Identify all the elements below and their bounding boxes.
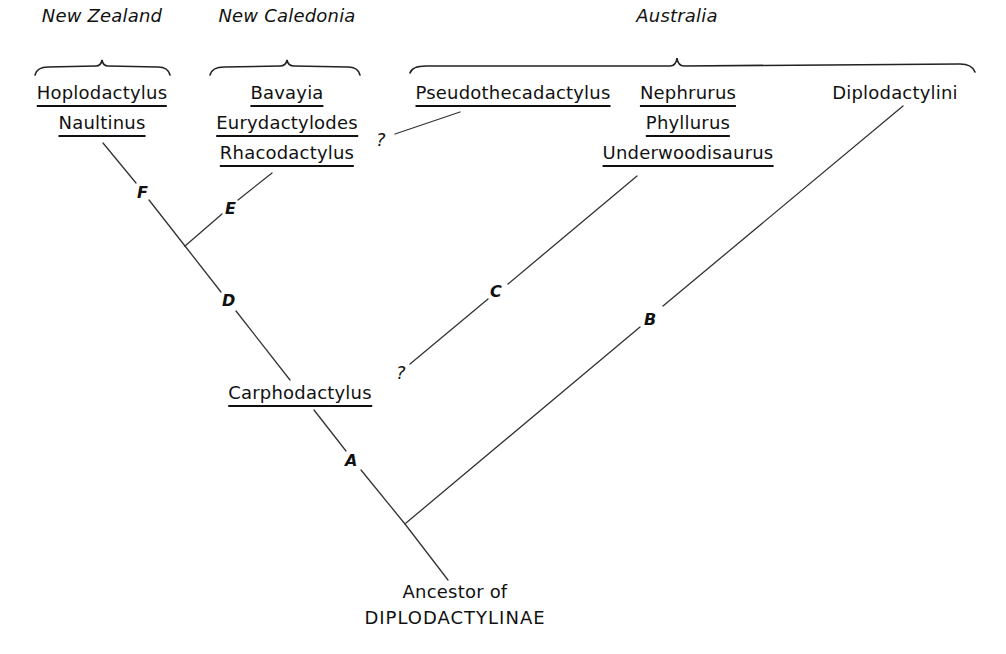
region-label-australia: Australia	[636, 6, 717, 26]
branch-e-lower	[185, 214, 222, 246]
taxon-nephrurus: Nephrurus	[640, 83, 736, 107]
branch-label-d: D	[222, 291, 235, 311]
branch-d-lower	[236, 311, 290, 380]
branch-e-upper	[238, 173, 272, 200]
taxon-rhacodactylus: Rhacodactylus	[220, 143, 354, 167]
branch-c-lower	[410, 299, 488, 364]
taxon-pseudothecadactylus: Pseudothecadactylus	[416, 83, 611, 107]
taxon-bavayia: Bavayia	[250, 83, 323, 107]
brace-australia	[410, 58, 975, 73]
branch-f-upper	[103, 143, 136, 183]
branch-c-upper	[508, 176, 637, 284]
taxon-carphodactylus: Carphodactylus	[228, 383, 372, 407]
uncertain-mark-underwoodisaurus: ?	[396, 363, 406, 383]
root-stem	[405, 524, 448, 580]
region-label-new-zealand: New Zealand	[42, 6, 162, 26]
taxon-underwoodisaurus: Underwoodisaurus	[603, 143, 774, 167]
brace-new-caledonia	[210, 60, 360, 75]
branch-a-lower	[361, 470, 405, 524]
phylogeny-diagram: New Zealand New Caledonia Australia Hopl…	[0, 0, 1006, 654]
root-label-line1: Ancestor of	[403, 582, 508, 602]
taxon-phyllurus: Phyllurus	[646, 113, 730, 137]
uncertain-mark-pseudothecadactylus: ?	[376, 130, 386, 150]
taxon-diplodactylini: Diplodactylini	[832, 83, 958, 103]
taxon-eurydactylodes: Eurydactylodes	[216, 113, 358, 137]
brace-new-zealand	[35, 60, 170, 75]
taxon-naultinus: Naultinus	[59, 113, 146, 137]
branch-pseudothecadactylus	[395, 112, 460, 134]
branch-label-e: E	[225, 199, 236, 219]
branch-label-a: A	[345, 451, 358, 471]
branch-b-lower	[406, 327, 640, 523]
region-label-new-caledonia: New Caledonia	[218, 6, 355, 26]
taxon-hoplodactylus: Hoplodactylus	[37, 83, 167, 107]
branch-label-c: C	[490, 282, 502, 302]
branch-d-upper	[185, 246, 221, 292]
branch-label-b: B	[644, 310, 656, 330]
branch-label-f: F	[137, 183, 148, 203]
root-label-line2: DIPLODACTYLINAE	[364, 608, 545, 628]
branch-a-upper	[314, 410, 346, 451]
branch-f-lower	[149, 200, 185, 246]
